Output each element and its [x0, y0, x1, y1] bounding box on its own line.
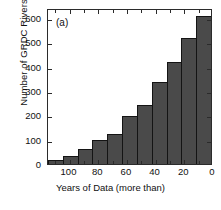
- bar-series: [48, 10, 211, 164]
- x-axis-minor-tick: [55, 161, 56, 164]
- y-axis-tick: [48, 44, 52, 45]
- y-axis-tick: [48, 69, 52, 70]
- x-axis-tick: [184, 10, 185, 14]
- bar: [137, 105, 153, 164]
- x-axis-tick: [127, 160, 128, 164]
- bar: [78, 149, 94, 164]
- x-axis-tick-label: 0: [209, 167, 214, 177]
- y-axis-tick-label: 400: [25, 63, 41, 73]
- x-axis-tick-label: 20: [178, 167, 189, 177]
- y-axis-tick: [207, 117, 211, 118]
- y-axis-tick: [207, 93, 211, 94]
- x-axis-title: Years of Data (more than): [0, 182, 221, 193]
- x-axis-tick: [70, 160, 71, 164]
- x-axis-minor-tick: [84, 10, 85, 13]
- x-axis-tick: [70, 10, 71, 14]
- bar: [107, 134, 123, 164]
- y-axis-tick: [48, 117, 52, 118]
- y-axis-tick-label: 0: [36, 160, 41, 170]
- y-axis-tick-labels: 0100200300400500600: [0, 0, 44, 210]
- x-axis-minor-tick: [170, 161, 171, 164]
- x-axis-minor-tick: [199, 161, 200, 164]
- x-axis-minor-tick: [141, 161, 142, 164]
- x-axis-tick: [184, 160, 185, 164]
- x-axis-minor-tick: [141, 10, 142, 13]
- x-axis-tick: [98, 10, 99, 14]
- bar: [92, 140, 108, 164]
- x-axis-tick: [98, 160, 99, 164]
- chart-figure: Number of GRDC Rivers 010020030040050060…: [0, 0, 221, 210]
- x-axis-minor-tick: [84, 161, 85, 164]
- x-axis-tick: [156, 160, 157, 164]
- y-axis-tick: [48, 93, 52, 94]
- x-axis-tick: [156, 10, 157, 14]
- x-axis-tick-label: 60: [121, 167, 132, 177]
- y-axis-tick-label: 200: [25, 111, 41, 121]
- y-axis-tick-label: 600: [25, 14, 41, 24]
- y-axis-tick-label: 500: [25, 38, 41, 48]
- bar: [152, 82, 168, 164]
- x-axis-tick-label: 40: [149, 167, 160, 177]
- x-axis-minor-tick: [170, 10, 171, 13]
- bar: [167, 62, 183, 164]
- x-axis-tick-labels: 100806040200: [47, 167, 212, 181]
- bar: [181, 38, 197, 165]
- x-axis-tick: [127, 10, 128, 14]
- y-axis-tick: [207, 142, 211, 143]
- y-axis-tick: [207, 20, 211, 21]
- y-axis-tick-label: 100: [25, 136, 41, 146]
- y-axis-tick: [48, 142, 52, 143]
- y-axis-tick: [207, 44, 211, 45]
- y-axis-tick-label: 300: [25, 87, 41, 97]
- x-axis-minor-tick: [199, 10, 200, 13]
- x-axis-minor-tick: [55, 10, 56, 13]
- bar: [122, 116, 138, 164]
- x-axis-minor-tick: [113, 161, 114, 164]
- y-axis-tick: [207, 69, 211, 70]
- y-axis-tick: [48, 20, 52, 21]
- x-axis-minor-tick: [113, 10, 114, 13]
- plot-area: (a): [47, 9, 212, 165]
- x-axis-tick-label: 100: [61, 167, 77, 177]
- bar: [63, 156, 79, 164]
- x-axis-tick-label: 80: [92, 167, 103, 177]
- panel-label: (a): [56, 17, 68, 28]
